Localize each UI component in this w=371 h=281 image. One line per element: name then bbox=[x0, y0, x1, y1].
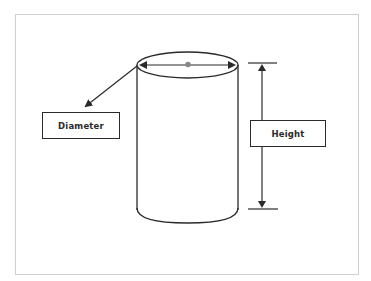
diameter-label: Diameter bbox=[42, 112, 120, 139]
center-dot bbox=[185, 62, 191, 68]
down-arrowhead-icon bbox=[258, 201, 266, 208]
diameter-pointer-arrow bbox=[86, 66, 137, 106]
up-arrowhead-icon bbox=[258, 64, 266, 71]
height-label: Height bbox=[250, 120, 326, 147]
cylinder-shape bbox=[137, 52, 238, 223]
